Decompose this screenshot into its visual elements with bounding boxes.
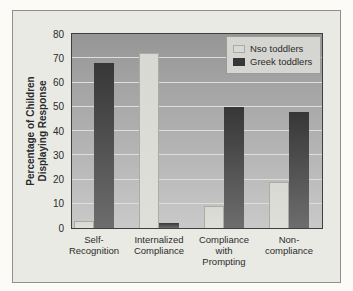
- bar-nso-toddlers-internalized-compliance: [139, 53, 159, 228]
- y-tick-label-50: 50: [53, 101, 64, 112]
- bar-group-self-recognition: [74, 34, 114, 228]
- figure: Percentage of Children Displaying Respon…: [0, 0, 353, 291]
- bar-nso-toddlers-non-compliance: [269, 182, 289, 228]
- y-tick-label-70: 70: [53, 53, 64, 64]
- x-category-label-non-compliance: Non- compliance: [244, 234, 334, 256]
- y-tick-label-80: 80: [53, 29, 64, 40]
- legend-swatch-icon: [233, 45, 245, 53]
- y-tick-label-20: 20: [53, 174, 64, 185]
- y-axis-tick-labels: 01020304050607080: [34, 33, 66, 229]
- bar-greek-toddlers-compliance-with-prompting: [224, 107, 244, 228]
- y-tick-label-30: 30: [53, 150, 64, 161]
- bar-greek-toddlers-non-compliance: [289, 112, 309, 228]
- x-axis-category-labels: Self- RecognitionInternalized Compliance…: [71, 233, 323, 279]
- legend-item-nso-toddlers: Nso toddlers: [233, 43, 312, 54]
- bar-nso-toddlers-compliance-with-prompting: [204, 206, 224, 228]
- y-tick-label-40: 40: [53, 126, 64, 137]
- bar-greek-toddlers-self-recognition: [94, 63, 114, 228]
- bar-nso-toddlers-self-recognition: [74, 221, 94, 228]
- legend-label: Greek toddlers: [250, 56, 312, 67]
- y-tick-label-60: 60: [53, 77, 64, 88]
- y-tick-label-0: 0: [58, 223, 64, 234]
- legend-label: Nso toddlers: [250, 43, 303, 54]
- legend-swatch-icon: [233, 58, 245, 66]
- legend-item-greek-toddlers: Greek toddlers: [233, 56, 312, 67]
- y-tick-label-10: 10: [53, 198, 64, 209]
- legend: Nso toddlersGreek toddlers: [226, 36, 321, 74]
- bar-group-internalized-compliance: [139, 34, 179, 228]
- bar-greek-toddlers-internalized-compliance: [159, 223, 179, 228]
